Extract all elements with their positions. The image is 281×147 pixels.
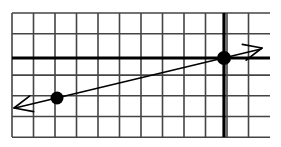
point-left-marker bbox=[51, 92, 64, 105]
coordinate-plane bbox=[0, 0, 281, 147]
graph-figure bbox=[0, 0, 281, 147]
point-right-marker bbox=[217, 51, 231, 65]
